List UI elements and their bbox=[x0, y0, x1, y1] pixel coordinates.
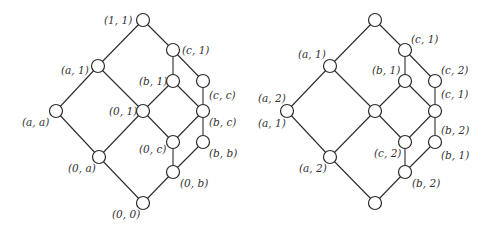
node-label: (a, 1) bbox=[258, 117, 286, 129]
lattice-node bbox=[197, 136, 210, 149]
lattice-node bbox=[137, 14, 150, 27]
node-label: (b, 2) bbox=[441, 124, 469, 136]
edge-r_a2b-r_bot bbox=[330, 157, 375, 203]
node-label: (b, 2) bbox=[412, 177, 440, 189]
node-label: (0, 0) bbox=[112, 208, 140, 220]
lattice-node bbox=[167, 75, 180, 88]
node-label: (c, 1) bbox=[441, 88, 468, 100]
lattice-node bbox=[197, 75, 210, 88]
edge-r_a1-r_mid bbox=[330, 66, 375, 111]
node-label: (a, 2) bbox=[299, 162, 327, 174]
lattice-node bbox=[429, 105, 442, 118]
edge-n01-n0a bbox=[99, 111, 143, 157]
node-label: (b, 1) bbox=[139, 75, 167, 87]
node-label: (0, b) bbox=[180, 177, 208, 189]
node-label: (a, 1) bbox=[298, 48, 326, 60]
left-lattice-diagram: (1, 1)(c, 1)(a, 1)(b, 1)(c, c)(a, a)(0, … bbox=[22, 14, 237, 221]
edge-n0a-n00 bbox=[99, 157, 143, 203]
lattice-node bbox=[324, 60, 337, 73]
lattice-node bbox=[429, 75, 442, 88]
lattice-node bbox=[399, 75, 412, 88]
lattice-diagrams: (1, 1)(c, 1)(a, 1)(b, 1)(c, c)(a, a)(0, … bbox=[0, 0, 485, 233]
edge-r_mid-r_a2b bbox=[330, 111, 375, 157]
node-label: (a, a) bbox=[22, 116, 49, 128]
lattice-node bbox=[50, 105, 63, 118]
lattice-node bbox=[429, 136, 442, 149]
lattice-node bbox=[281, 105, 294, 118]
node-label: (a, 1) bbox=[61, 64, 89, 76]
node-label: (c, 2) bbox=[441, 64, 468, 76]
node-label: (b, 1) bbox=[372, 64, 400, 76]
edge-r_a1-r_a2 bbox=[287, 66, 330, 111]
node-label: (c, 1) bbox=[182, 44, 209, 56]
edge-r_a2-r_a2b bbox=[287, 111, 330, 157]
lattice-node bbox=[167, 166, 180, 179]
node-label: (0, c) bbox=[139, 143, 166, 155]
node-label: (c, 1) bbox=[411, 33, 438, 45]
node-label: (0, a) bbox=[68, 162, 96, 174]
lattice-node bbox=[399, 166, 412, 179]
node-label: (b, b) bbox=[209, 147, 237, 159]
lattice-node bbox=[369, 197, 382, 210]
node-label: (1, 1) bbox=[104, 14, 132, 26]
lattice-node bbox=[197, 105, 210, 118]
node-label: (a, 2) bbox=[258, 92, 286, 104]
right-lattice-diagram: (c, 1)(a, 1)(b, 1)(c, 2)(a, 2)(c, 1)(c, … bbox=[258, 14, 469, 210]
edge-naa-n0a bbox=[56, 111, 99, 157]
edge-r_top-r_a1 bbox=[330, 20, 375, 66]
node-label: (0, 1) bbox=[109, 105, 137, 117]
lattice-node bbox=[92, 60, 105, 73]
node-label: (c, 2) bbox=[374, 147, 401, 159]
lattice-node bbox=[167, 44, 180, 57]
node-label: (c, c) bbox=[209, 89, 236, 101]
edge-n11-na1 bbox=[98, 20, 143, 66]
lattice-node bbox=[369, 14, 382, 27]
node-label: (b, c) bbox=[209, 116, 236, 128]
lattice-node bbox=[167, 136, 180, 149]
lattice-node bbox=[137, 105, 150, 118]
lattice-node bbox=[369, 105, 382, 118]
node-label: (b, 1) bbox=[441, 149, 469, 161]
lattice-node bbox=[399, 44, 412, 57]
